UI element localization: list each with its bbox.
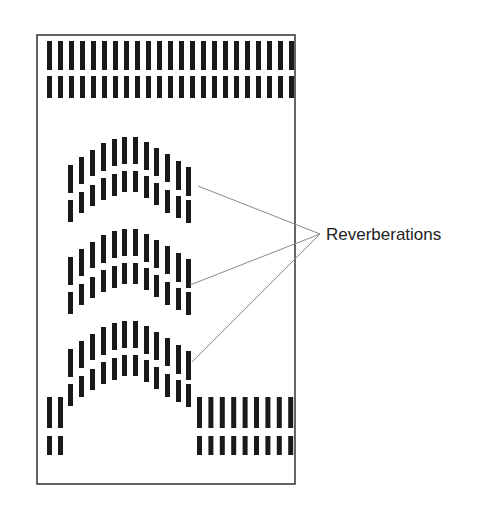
echo-bar bbox=[80, 41, 85, 70]
arc-bar-lower bbox=[144, 268, 149, 290]
arc-bar-lower bbox=[154, 367, 159, 389]
leader-lines bbox=[190, 186, 320, 362]
arc-bar-lower bbox=[154, 183, 159, 205]
echo-bar bbox=[47, 397, 52, 428]
arc-bar-upper bbox=[122, 229, 127, 256]
arc-bar-lower bbox=[101, 270, 106, 292]
arc-bar-upper bbox=[112, 139, 117, 166]
echo-bar bbox=[58, 397, 63, 428]
echo-bar bbox=[47, 41, 52, 70]
arc-bar-lower bbox=[112, 266, 117, 288]
echo-bar bbox=[231, 397, 236, 428]
arc-bar-lower bbox=[165, 374, 170, 397]
echo-bar bbox=[278, 41, 283, 70]
arc-bar-lower bbox=[176, 288, 181, 310]
reverberation-arcs bbox=[68, 137, 191, 407]
arc-bar-upper bbox=[154, 240, 159, 268]
echo-bar bbox=[223, 76, 228, 98]
echo-bar bbox=[289, 41, 294, 70]
echo-bar bbox=[201, 76, 206, 98]
arc-bar-upper bbox=[154, 148, 159, 176]
echo-bar bbox=[256, 76, 261, 98]
arc-bar-lower bbox=[176, 196, 181, 218]
arc-bar-upper bbox=[165, 338, 170, 366]
arc-bar-upper bbox=[144, 326, 149, 354]
arc-bar-lower bbox=[154, 275, 159, 297]
arc-bar-lower bbox=[90, 185, 95, 206]
echo-bar bbox=[47, 436, 52, 455]
arc-bar-lower bbox=[144, 360, 149, 382]
arc-bar-lower bbox=[79, 192, 84, 213]
arc-bar-upper bbox=[68, 349, 73, 377]
arc-bar-upper bbox=[165, 246, 170, 274]
arc-bar-upper bbox=[176, 161, 181, 190]
echo-bar bbox=[58, 436, 63, 455]
echo-bar bbox=[69, 76, 74, 98]
arc-bar-upper bbox=[79, 249, 84, 276]
bottom-right-bars bbox=[197, 397, 293, 455]
echo-bar bbox=[289, 76, 294, 98]
leader-line-3 bbox=[192, 234, 320, 362]
arc-bar-upper bbox=[90, 150, 95, 176]
echo-bar bbox=[113, 41, 118, 70]
arc-bar-lower bbox=[122, 263, 127, 284]
echo-bar bbox=[267, 76, 272, 98]
echo-bar bbox=[168, 76, 173, 98]
echo-bar bbox=[267, 41, 272, 70]
echo-bar bbox=[201, 41, 206, 70]
echo-bar bbox=[124, 41, 129, 70]
reverberations-label: Reverberations bbox=[326, 225, 441, 244]
echo-bar bbox=[212, 76, 217, 98]
arc-bar-lower bbox=[112, 358, 117, 380]
echo-bar bbox=[231, 436, 236, 455]
echo-bar bbox=[277, 436, 282, 455]
arc-bar-upper bbox=[133, 137, 138, 164]
echo-bar bbox=[157, 41, 162, 70]
arc-bar-lower bbox=[90, 277, 95, 298]
echo-bar bbox=[91, 76, 96, 98]
echo-bar bbox=[197, 397, 202, 428]
echo-bar bbox=[190, 41, 195, 70]
echo-bar bbox=[102, 76, 107, 98]
arc-bar-lower bbox=[133, 171, 138, 192]
arc-bar-upper bbox=[90, 334, 95, 360]
arc-bar-upper bbox=[144, 142, 149, 170]
echo-bar bbox=[254, 436, 259, 455]
echo-bar bbox=[113, 76, 118, 98]
echo-bar bbox=[220, 397, 225, 428]
arc-bar-upper bbox=[68, 165, 73, 193]
echo-bar bbox=[234, 41, 239, 70]
echo-bar bbox=[208, 436, 213, 455]
arc-bar-upper bbox=[122, 321, 127, 348]
echo-bar bbox=[124, 76, 129, 98]
echo-bar bbox=[245, 41, 250, 70]
arc-bar-upper bbox=[112, 323, 117, 350]
arc-bar-upper bbox=[133, 229, 138, 256]
arc-bar-upper bbox=[79, 157, 84, 184]
echo-bar bbox=[69, 41, 74, 70]
arc-bar-lower bbox=[101, 362, 106, 384]
arc-bar-upper bbox=[154, 332, 159, 360]
echo-bar bbox=[58, 41, 63, 70]
echo-bar bbox=[197, 436, 202, 455]
arc-bar-lower bbox=[79, 284, 84, 305]
arc-bar-upper bbox=[186, 351, 191, 380]
echo-bar bbox=[91, 41, 96, 70]
echo-bar bbox=[135, 41, 140, 70]
echo-bar bbox=[208, 397, 213, 428]
top-bar-rows bbox=[47, 41, 294, 98]
echo-bar bbox=[243, 397, 248, 428]
arc-bar-upper bbox=[186, 167, 191, 196]
echo-bar bbox=[288, 397, 293, 428]
arc-bar-upper bbox=[176, 345, 181, 374]
echo-bar bbox=[277, 397, 282, 428]
arc-bar-upper bbox=[144, 234, 149, 262]
leader-line-1 bbox=[198, 186, 320, 234]
echo-bar bbox=[245, 76, 250, 98]
bottom-left-bars bbox=[47, 397, 63, 455]
leader-line-2 bbox=[190, 234, 320, 285]
arc-bar-upper bbox=[176, 253, 181, 282]
echo-bar bbox=[190, 76, 195, 98]
arc-bar-lower bbox=[176, 380, 181, 402]
arc-bar-upper bbox=[112, 231, 117, 258]
